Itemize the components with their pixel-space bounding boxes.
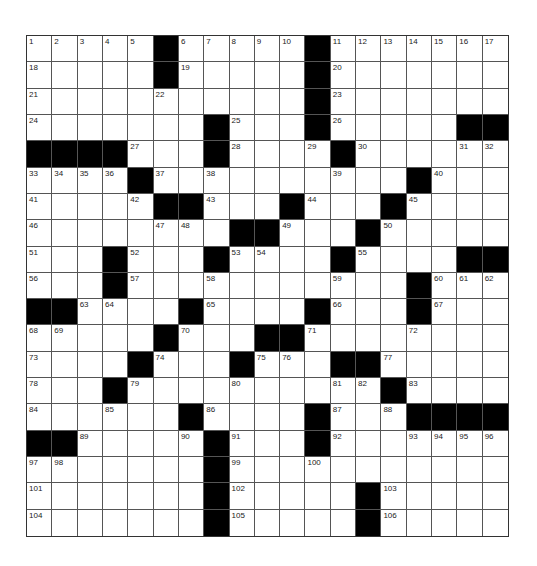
- grid-cell[interactable]: 25: [230, 115, 255, 141]
- grid-cell[interactable]: 99: [230, 457, 255, 483]
- grid-cell[interactable]: 18: [27, 62, 52, 88]
- grid-cell[interactable]: [280, 404, 305, 430]
- grid-cell[interactable]: [230, 89, 255, 115]
- grid-cell[interactable]: [255, 194, 280, 220]
- grid-cell[interactable]: 89: [78, 431, 103, 457]
- grid-cell[interactable]: 29: [305, 141, 330, 167]
- grid-cell[interactable]: [381, 89, 406, 115]
- grid-cell[interactable]: [103, 510, 128, 536]
- grid-cell[interactable]: [356, 457, 381, 483]
- grid-cell[interactable]: 102: [230, 483, 255, 509]
- grid-cell[interactable]: [305, 483, 330, 509]
- grid-cell[interactable]: [457, 62, 482, 88]
- grid-cell[interactable]: [128, 115, 153, 141]
- grid-cell[interactable]: 20: [331, 62, 356, 88]
- grid-cell[interactable]: [381, 141, 406, 167]
- grid-cell[interactable]: [407, 220, 432, 246]
- grid-cell[interactable]: 27: [128, 141, 153, 167]
- grid-cell[interactable]: [331, 194, 356, 220]
- grid-cell[interactable]: [103, 89, 128, 115]
- grid-cell[interactable]: [305, 510, 330, 536]
- grid-cell[interactable]: [407, 62, 432, 88]
- grid-cell[interactable]: 83: [407, 378, 432, 404]
- grid-cell[interactable]: [483, 62, 508, 88]
- grid-cell[interactable]: [280, 141, 305, 167]
- grid-cell[interactable]: 36: [103, 168, 128, 194]
- grid-cell[interactable]: 50: [381, 220, 406, 246]
- grid-cell[interactable]: 92: [331, 431, 356, 457]
- grid-cell[interactable]: 96: [483, 431, 508, 457]
- grid-cell[interactable]: [280, 62, 305, 88]
- grid-cell[interactable]: [179, 457, 204, 483]
- grid-cell[interactable]: 2: [52, 36, 77, 62]
- grid-cell[interactable]: 74: [154, 352, 179, 378]
- grid-cell[interactable]: 85: [103, 404, 128, 430]
- grid-cell[interactable]: 73: [27, 352, 52, 378]
- grid-cell[interactable]: [103, 325, 128, 351]
- grid-cell[interactable]: [331, 510, 356, 536]
- grid-cell[interactable]: [52, 483, 77, 509]
- grid-cell[interactable]: 4: [103, 36, 128, 62]
- grid-cell[interactable]: 8: [230, 36, 255, 62]
- grid-cell[interactable]: 82: [356, 378, 381, 404]
- grid-cell[interactable]: 30: [356, 141, 381, 167]
- grid-cell[interactable]: 90: [179, 431, 204, 457]
- grid-cell[interactable]: 61: [457, 273, 482, 299]
- grid-cell[interactable]: 86: [204, 404, 229, 430]
- grid-cell[interactable]: [432, 457, 457, 483]
- grid-cell[interactable]: [179, 510, 204, 536]
- grid-cell[interactable]: [407, 141, 432, 167]
- grid-cell[interactable]: 13: [381, 36, 406, 62]
- grid-cell[interactable]: [78, 325, 103, 351]
- grid-cell[interactable]: 49: [280, 220, 305, 246]
- grid-cell[interactable]: [457, 378, 482, 404]
- grid-cell[interactable]: 69: [52, 325, 77, 351]
- grid-cell[interactable]: 59: [331, 273, 356, 299]
- grid-cell[interactable]: [457, 220, 482, 246]
- grid-cell[interactable]: [381, 168, 406, 194]
- grid-cell[interactable]: [432, 89, 457, 115]
- grid-cell[interactable]: [255, 273, 280, 299]
- grid-cell[interactable]: 97: [27, 457, 52, 483]
- grid-cell[interactable]: 42: [128, 194, 153, 220]
- grid-cell[interactable]: [305, 378, 330, 404]
- grid-cell[interactable]: 26: [331, 115, 356, 141]
- grid-cell[interactable]: [483, 299, 508, 325]
- grid-cell[interactable]: [356, 62, 381, 88]
- grid-cell[interactable]: [154, 431, 179, 457]
- grid-cell[interactable]: [432, 483, 457, 509]
- grid-cell[interactable]: [255, 457, 280, 483]
- grid-cell[interactable]: 34: [52, 168, 77, 194]
- grid-cell[interactable]: [381, 62, 406, 88]
- grid-cell[interactable]: [432, 141, 457, 167]
- grid-cell[interactable]: [154, 299, 179, 325]
- grid-cell[interactable]: [432, 247, 457, 273]
- grid-cell[interactable]: 76: [280, 352, 305, 378]
- grid-cell[interactable]: [78, 457, 103, 483]
- grid-cell[interactable]: [305, 220, 330, 246]
- grid-cell[interactable]: [179, 141, 204, 167]
- grid-cell[interactable]: 48: [179, 220, 204, 246]
- grid-cell[interactable]: 67: [432, 299, 457, 325]
- grid-cell[interactable]: [407, 247, 432, 273]
- grid-cell[interactable]: [204, 325, 229, 351]
- grid-cell[interactable]: [154, 115, 179, 141]
- grid-cell[interactable]: [103, 194, 128, 220]
- grid-cell[interactable]: [432, 220, 457, 246]
- grid-cell[interactable]: [483, 194, 508, 220]
- grid-cell[interactable]: 72: [407, 325, 432, 351]
- grid-cell[interactable]: [305, 352, 330, 378]
- grid-cell[interactable]: [78, 352, 103, 378]
- grid-cell[interactable]: 9: [255, 36, 280, 62]
- grid-cell[interactable]: [52, 404, 77, 430]
- grid-cell[interactable]: [78, 247, 103, 273]
- grid-cell[interactable]: [128, 62, 153, 88]
- grid-cell[interactable]: 52: [128, 247, 153, 273]
- grid-cell[interactable]: [331, 220, 356, 246]
- grid-cell[interactable]: [154, 141, 179, 167]
- grid-cell[interactable]: [280, 273, 305, 299]
- grid-cell[interactable]: [179, 378, 204, 404]
- grid-cell[interactable]: [356, 325, 381, 351]
- grid-cell[interactable]: [128, 299, 153, 325]
- grid-cell[interactable]: [407, 457, 432, 483]
